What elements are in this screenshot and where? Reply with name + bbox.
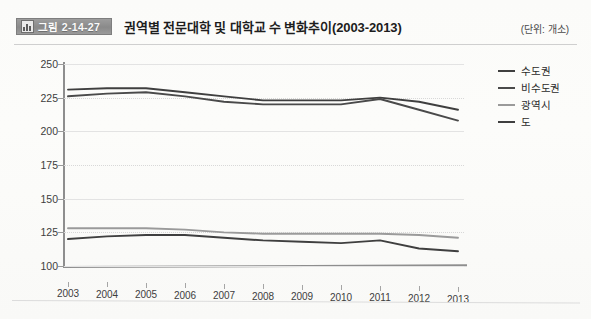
legend-label: 수도권 — [521, 63, 550, 78]
legend-item[interactable]: 도 — [498, 113, 586, 130]
legend-item[interactable]: 비수도권 — [498, 79, 586, 96]
figure-number-badge: 그림 2-14-27 — [16, 18, 112, 35]
x-tick-mark — [185, 283, 186, 288]
header-divider — [14, 44, 577, 45]
x-tick-mark — [341, 285, 342, 290]
legend-item[interactable]: 수도권 — [498, 62, 586, 79]
figure-header: 그림 2-14-27 권역별 전문대학 및 대학교 수 변화추이(2003-20… — [0, 14, 591, 46]
y-tick-label: 250 — [40, 58, 58, 70]
series-line — [68, 235, 458, 251]
y-tick-mark — [58, 266, 64, 267]
x-tick-label: 2005 — [135, 289, 157, 300]
gridline — [64, 266, 464, 267]
x-tick-mark — [107, 282, 108, 287]
series-line — [68, 92, 458, 120]
x-tick-mark — [419, 286, 420, 291]
y-tick-label: 225 — [40, 92, 58, 104]
series-line — [68, 88, 458, 110]
x-tick-mark — [146, 283, 147, 288]
y-tick-label: 100 — [40, 260, 58, 272]
legend-swatch — [498, 104, 515, 106]
x-tick-label: 2006 — [174, 290, 196, 301]
x-tick-mark — [263, 284, 264, 289]
x-tick-label: 2007 — [213, 290, 235, 301]
x-tick-mark — [458, 287, 459, 292]
y-tick-label: 200 — [40, 125, 58, 137]
x-tick-label: 2004 — [96, 289, 118, 300]
legend-label: 광역시 — [521, 97, 550, 112]
x-tick-mark — [68, 282, 69, 287]
legend-swatch — [498, 70, 515, 72]
unit-label: (단위: 개소) — [521, 21, 569, 36]
legend-swatch — [498, 87, 515, 89]
y-tick-label: 125 — [40, 226, 58, 238]
y-tick-label: 150 — [40, 193, 58, 205]
y-tick-label: 175 — [40, 159, 58, 171]
figure-number-label: 그림 2-14-27 — [38, 19, 100, 34]
legend-label: 비수도권 — [521, 80, 560, 95]
figure-title: 권역별 전문대학 및 대학교 수 변화추이(2003-2013) — [124, 17, 402, 36]
legend-label: 도 — [521, 114, 531, 129]
chart-legend: 수도권비수도권광역시도 — [498, 62, 586, 130]
x-tick-mark — [380, 286, 381, 291]
legend-item[interactable]: 광역시 — [498, 96, 586, 113]
x-tick-mark — [224, 284, 225, 289]
legend-swatch — [498, 121, 515, 123]
x-tick-label: 2003 — [57, 288, 79, 299]
bar-chart-icon — [21, 20, 34, 33]
plot-area: 100125150175200225250 200320042005200620… — [64, 64, 464, 266]
x-tick-mark — [302, 285, 303, 290]
series-lines — [64, 64, 464, 266]
